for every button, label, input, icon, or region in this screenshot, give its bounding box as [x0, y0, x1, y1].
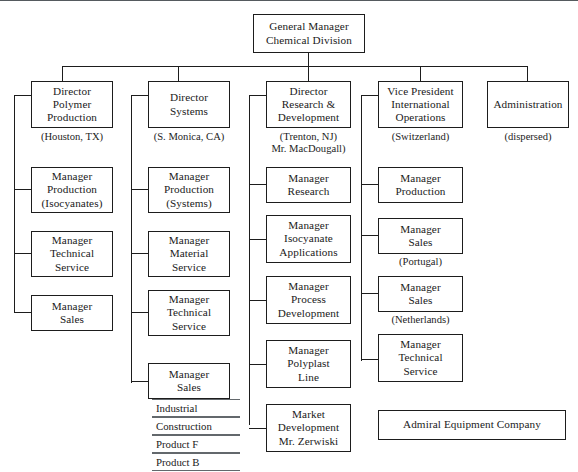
stub-mgr-sales-portugal	[361, 235, 379, 236]
box-mgr-production-systems-label: Manager Production (Systems)	[149, 170, 229, 209]
stub-mgr-technical-service-systems	[131, 312, 149, 313]
stub-mgr-material-service	[131, 253, 149, 254]
box-mgr-isocyanate-applications-label: Manager Isocyanate Applications	[267, 219, 350, 258]
stub-mgr-process-development	[249, 300, 267, 301]
caption-mgr-sales-netherlands: (Netherlands)	[374, 314, 467, 326]
connector-drop-systems	[178, 66, 179, 82]
stub-mgr-polyplast-line	[249, 364, 267, 365]
box-mgr-technical-service-polymer[interactable]: Manager Technical Service	[31, 231, 113, 277]
caption-director-systems: (S. Monica, CA)	[140, 131, 238, 143]
box-mgr-production-isocyanates-label: Manager Production (Isocyanates)	[32, 170, 112, 209]
box-mgr-sales-systems[interactable]: Manager Sales	[148, 363, 230, 399]
stub-mgr-sales-systems	[131, 381, 149, 382]
connector-drop-admin	[527, 66, 528, 82]
box-director-rnd-label: Director Research & Development	[267, 85, 350, 124]
stub-mgr-technical-service-polymer	[14, 253, 32, 254]
box-general-manager[interactable]: General Manager Chemical Division	[253, 14, 365, 53]
stub-mgr-research	[249, 184, 267, 185]
box-vp-international-operations-label: Vice President International Operations	[379, 85, 462, 124]
spine-systems	[131, 95, 132, 383]
box-mgr-sales-netherlands[interactable]: Manager Sales	[378, 276, 463, 312]
box-mgr-material-service-label: Manager Material Service	[149, 234, 229, 273]
box-administration-label: Administration	[488, 98, 568, 111]
box-mgr-sales-netherlands-label: Manager Sales	[379, 281, 462, 307]
box-mgr-polyplast-line[interactable]: Manager Polyplast Line	[266, 340, 351, 388]
box-director-systems-label: Director Systems	[149, 91, 229, 117]
connector-root-drop	[308, 53, 309, 67]
connector-drop-rnd	[308, 66, 309, 82]
stub-market-development	[249, 428, 267, 429]
sublist-item-product-f[interactable]: Product F	[152, 435, 240, 453]
box-mgr-technical-service-systems-label: Manager Technical Service	[149, 293, 229, 332]
sublist-item-construction-label: Construction	[156, 420, 212, 432]
box-mgr-technical-service-intl[interactable]: Manager Technical Service	[378, 334, 463, 382]
box-mgr-technical-service-systems[interactable]: Manager Technical Service	[148, 290, 230, 336]
box-mgr-material-service[interactable]: Manager Material Service	[148, 231, 230, 277]
box-mgr-sales-portugal-label: Manager Sales	[379, 223, 462, 249]
box-mgr-research-label: Manager Research	[267, 172, 350, 198]
stub-mgr-production-systems	[131, 189, 149, 190]
caption-vp-international-operations: (Switzerland)	[374, 131, 467, 143]
box-mgr-production-systems[interactable]: Manager Production (Systems)	[148, 167, 230, 213]
caption-polymer-production: (Houston, TX)	[31, 131, 113, 143]
box-mgr-process-development-label: Manager Process Development	[267, 280, 350, 319]
box-vp-international-operations[interactable]: Vice President International Operations	[378, 81, 463, 128]
stub-mgr-production-isocyanates	[14, 189, 32, 190]
box-director-systems[interactable]: Director Systems	[148, 81, 230, 128]
box-mgr-process-development[interactable]: Manager Process Development	[266, 276, 351, 324]
stub-mgr-production-intl	[361, 184, 379, 185]
sublist-item-construction[interactable]: Construction	[152, 417, 240, 435]
box-mgr-production-isocyanates[interactable]: Manager Production (Isocyanates)	[31, 167, 113, 213]
stub-mgr-isocyanate-applications	[249, 239, 267, 240]
sublist-item-industrial[interactable]: Industrial	[152, 399, 240, 417]
caption-administration: (dispersed)	[487, 131, 569, 143]
box-market-development[interactable]: Market Development Mr. Zerwiski	[266, 404, 351, 452]
connector-drop-polymer	[62, 66, 63, 82]
connector-top-bus	[62, 66, 528, 67]
caption-mgr-sales-portugal: (Portugal)	[378, 256, 463, 268]
connector-drop-intl	[420, 66, 421, 82]
box-mgr-polyplast-line-label: Manager Polyplast Line	[267, 344, 350, 383]
box-mgr-research[interactable]: Manager Research	[266, 167, 351, 203]
box-mgr-sales-portugal[interactable]: Manager Sales	[378, 218, 463, 254]
box-polymer-production-label: Director Polymer Production	[32, 85, 112, 124]
box-mgr-isocyanate-applications[interactable]: Manager Isocyanate Applications	[266, 215, 351, 263]
box-general-manager-label: General Manager Chemical Division	[254, 20, 364, 46]
stub-intl-header	[361, 95, 379, 96]
box-polymer-production[interactable]: Director Polymer Production	[31, 81, 113, 128]
spine-rnd	[249, 95, 250, 425]
box-mgr-technical-service-polymer-label: Manager Technical Service	[32, 234, 112, 273]
box-mgr-production-intl[interactable]: Manager Production	[378, 167, 463, 203]
stub-polymer-header	[14, 95, 32, 96]
sublist-item-product-b-label: Product B	[156, 456, 200, 468]
box-admiral-equipment-company-label: Admiral Equipment Company	[379, 418, 565, 431]
spine-international	[361, 95, 362, 361]
sublist-item-industrial-label: Industrial	[156, 402, 197, 414]
stub-systems-header	[131, 95, 149, 96]
stub-rnd-header	[249, 95, 267, 96]
org-chart-canvas: General Manager Chemical Division Direct…	[0, 0, 578, 472]
box-mgr-sales-polymer[interactable]: Manager Sales	[31, 295, 113, 331]
stub-mgr-sales-netherlands	[361, 293, 379, 294]
sublist-item-product-f-label: Product F	[156, 438, 198, 450]
box-mgr-sales-systems-label: Manager Sales	[149, 368, 229, 394]
box-mgr-production-intl-label: Manager Production	[379, 172, 462, 198]
spine-polymer-production	[14, 95, 15, 313]
stub-mgr-technical-service-intl	[361, 359, 379, 360]
stub-mgr-sales-polymer	[14, 312, 32, 313]
top-border-rule	[0, 0, 578, 1]
box-mgr-sales-polymer-label: Manager Sales	[32, 300, 112, 326]
sublist-item-product-b[interactable]: Product B	[152, 453, 240, 471]
box-mgr-technical-service-intl-label: Manager Technical Service	[379, 338, 462, 377]
box-admiral-equipment-company[interactable]: Admiral Equipment Company	[378, 410, 566, 440]
box-market-development-label: Market Development Mr. Zerwiski	[267, 408, 350, 447]
caption-director-rnd: (Trenton, NJ) Mr. MacDougall)	[258, 131, 359, 155]
box-director-rnd[interactable]: Director Research & Development	[266, 81, 351, 128]
box-administration[interactable]: Administration	[487, 81, 569, 128]
